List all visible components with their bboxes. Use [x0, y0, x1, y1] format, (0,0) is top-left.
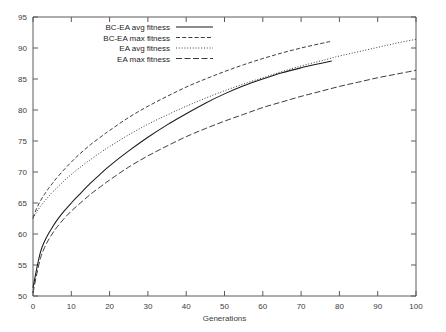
legend-label-0: BC-EA avg fitness [106, 23, 170, 32]
x-tick-label: 80 [335, 302, 344, 311]
x-tick-label: 50 [220, 302, 229, 311]
y-tick-label: 90 [18, 44, 27, 53]
x-tick-label: 100 [409, 302, 423, 311]
y-tick-label: 60 [18, 230, 27, 239]
y-tick-label: 85 [18, 75, 27, 84]
chart-canvas: 50556065707580859095 0102030405060708090… [0, 0, 446, 332]
y-tick-label: 75 [18, 137, 27, 146]
x-tick-label: 30 [143, 302, 152, 311]
y-tick-label: 70 [18, 168, 27, 177]
y-tick-label: 50 [18, 292, 27, 301]
x-tick-label: 90 [373, 302, 382, 311]
y-tick-label: 55 [18, 261, 27, 270]
x-tick-label: 70 [297, 302, 306, 311]
chart-background [0, 0, 446, 332]
x-axis-label: Generations [203, 314, 247, 323]
x-tick-label: 40 [182, 302, 191, 311]
legend-label-1: BC-EA max fitness [103, 34, 170, 43]
x-tick-label: 20 [105, 302, 114, 311]
x-tick-label: 60 [258, 302, 267, 311]
legend-label-2: EA avg fitness [119, 44, 170, 53]
y-tick-label: 95 [18, 13, 27, 22]
fitness-line-chart: 50556065707580859095 0102030405060708090… [0, 0, 446, 332]
y-tick-label: 65 [18, 199, 27, 208]
y-tick-label: 80 [18, 106, 27, 115]
x-tick-label: 10 [67, 302, 76, 311]
legend-label-3: EA max fitness [117, 55, 170, 64]
x-tick-label: 0 [31, 302, 36, 311]
